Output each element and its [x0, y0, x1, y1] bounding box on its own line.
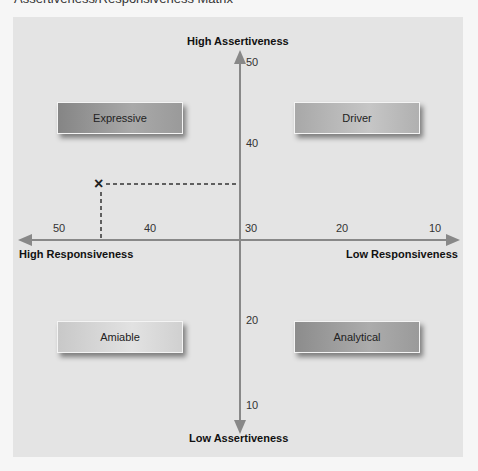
axes [0, 0, 478, 471]
arrow-up-icon [234, 50, 246, 64]
quadrant-analytical: Analytical [294, 321, 420, 353]
h-tick-20: 20 [336, 222, 348, 234]
top-axis-label: High Assertiveness [187, 35, 289, 47]
v-tick-40: 40 [246, 137, 258, 149]
arrow-left-icon [18, 234, 32, 246]
tick-30: 30 [245, 222, 257, 234]
v-tick-20: 20 [246, 314, 258, 326]
h-tick-10: 10 [429, 222, 441, 234]
plotted-point-marker: × [94, 176, 103, 192]
quadrant-expressive: Expressive [57, 102, 183, 134]
v-tick-50: 50 [246, 56, 258, 68]
arrow-right-icon [446, 234, 460, 246]
h-tick-50: 50 [53, 222, 65, 234]
v-tick-10: 10 [246, 399, 258, 411]
bottom-axis-label: Low Assertiveness [189, 432, 288, 444]
quadrant-amiable: Amiable [57, 321, 183, 353]
h-tick-40: 40 [144, 222, 156, 234]
left-axis-label: High Responsiveness [19, 248, 133, 260]
right-axis-label: Low Responsiveness [346, 248, 458, 260]
quadrant-driver: Driver [294, 102, 420, 134]
